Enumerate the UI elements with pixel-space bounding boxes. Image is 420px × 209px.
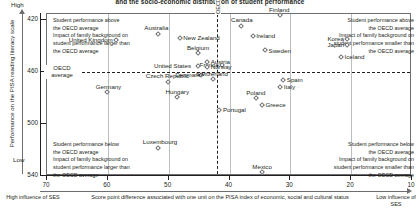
oecd-average-horizontal-label: OECD average [44, 65, 80, 79]
y-axis-tick [40, 123, 46, 124]
chart-title: and the socio-economic distribution of s… [0, 0, 420, 5]
y-axis-low-label: Low [13, 156, 24, 163]
x-axis-tick [46, 175, 47, 180]
chart-container: and the socio-economic distribution of s… [0, 0, 420, 209]
data-point-label: United Kingdom [69, 36, 113, 43]
x-axis-tick [229, 175, 230, 180]
data-point-label: Ireland [256, 32, 275, 39]
data-point-label: Finland [269, 6, 289, 13]
data-point-label: Japan [327, 41, 344, 48]
data-point-label: Germany [96, 83, 121, 90]
data-point-label: Poland [246, 89, 265, 96]
data-point-label: Iceland [345, 53, 365, 60]
y-axis-title: Performance on the PISA reading literacy… [8, 4, 15, 164]
y-axis-tick-label: 420 [8, 15, 38, 22]
x-axis-tick-label: 10 [399, 181, 420, 188]
x-axis-tick [107, 175, 108, 180]
x-axis-direction-arrow-line [40, 191, 409, 192]
x-axis-tick-label: 30 [277, 181, 301, 188]
x-axis-tick-label: 40 [217, 181, 241, 188]
x-axis-tick [289, 175, 290, 180]
y-axis-line [40, 13, 41, 175]
x-axis-tick-label: 60 [95, 181, 119, 188]
quadrant-note-bottom-left: Student performance below the OECD avera… [53, 141, 153, 179]
y-axis-direction-arrow-line [22, 14, 23, 174]
data-point-label: New Zealand [183, 34, 219, 41]
data-point-label: Mexico [252, 163, 272, 170]
gridline-vertical [230, 14, 231, 174]
y-axis-tick-label: 460 [8, 67, 38, 74]
data-point-label: Portugal [223, 106, 246, 113]
data-point-label: Italy [284, 83, 295, 90]
quadrant-note-bottom-right: Student performance below the OECD avera… [314, 141, 414, 179]
data-point-label: Greece [265, 101, 285, 108]
data-point-label: Belgium [187, 44, 209, 51]
oecd-average-horizontal-line [47, 72, 410, 73]
x-axis-tick [350, 175, 351, 180]
y-axis-arrow-head-icon [19, 9, 25, 14]
x-axis-tick [411, 175, 412, 180]
gridline-vertical [290, 14, 291, 174]
x-axis-tick-label: 20 [338, 181, 362, 188]
y-axis-tick [40, 19, 46, 20]
data-point-label: Czech Republic [146, 72, 189, 79]
data-point-label: Canada [231, 16, 253, 23]
data-point-label: Luxembourg [143, 138, 177, 145]
x-axis-tick [168, 175, 169, 180]
x-axis-title: Score point difference associated with o… [80, 194, 360, 200]
data-point-label: United States [154, 62, 191, 69]
x-axis-right-endpoint-label: Low influence of SES [372, 194, 420, 208]
data-point-label: Australia [144, 24, 168, 31]
y-axis-tick-label: 500 [8, 119, 38, 126]
data-point-label: Sweden [269, 47, 291, 54]
data-point-label: Hungary [166, 88, 189, 95]
x-axis-tick-label: 70 [34, 181, 58, 188]
x-axis-tick-label: 50 [156, 181, 180, 188]
oecd-average-vertical-label: OECD average [215, 0, 221, 15]
x-axis-left-endpoint-label: High influence of SES [6, 194, 60, 201]
data-point-label: Switzerland [196, 70, 228, 77]
y-axis-tick-label: 540 [8, 171, 38, 178]
